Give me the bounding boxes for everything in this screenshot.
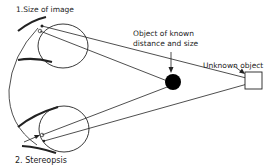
known-object-arrowhead bbox=[169, 67, 174, 73]
lower-eye bbox=[18, 106, 89, 153]
unknown-object bbox=[245, 72, 262, 89]
lower-eye-bottom-lid bbox=[22, 146, 56, 153]
size-of-image-curve bbox=[9, 28, 38, 145]
depth-perception-diagram: 1.Size of image Object of known distance… bbox=[0, 0, 273, 166]
upper-eye-bottom-lid bbox=[18, 59, 52, 62]
lower-eyeball bbox=[39, 106, 89, 152]
known-object bbox=[165, 74, 181, 90]
known-object-label-line1: Object of known bbox=[133, 29, 194, 38]
arrow-heads bbox=[34, 67, 245, 139]
upper-eyeball bbox=[38, 24, 88, 68]
upper-eye bbox=[18, 17, 88, 68]
stereopsis-label: 2. Stereopsis bbox=[15, 156, 67, 165]
unknown-object-label: Unknown object bbox=[203, 61, 263, 70]
lower-line-to-unknown bbox=[44, 81, 258, 141]
label-arrows bbox=[9, 28, 242, 145]
lower-eye-top-lid bbox=[18, 107, 58, 127]
size-of-image-label: 1.Size of image bbox=[16, 5, 74, 14]
known-object-label-line2: distance and size bbox=[133, 39, 199, 48]
upper-eye-top-lid bbox=[18, 17, 46, 31]
